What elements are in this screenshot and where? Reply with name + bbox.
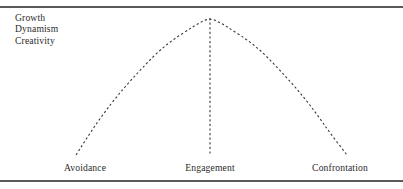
figure-container: Growth Dynamism Creativity Avoidance Eng… (0, 0, 403, 189)
axis-label-avoidance: Avoidance (64, 162, 106, 173)
bottom-rule (0, 180, 403, 182)
axis-label-confrontation: Confrontation (312, 162, 368, 173)
annotation-block: Growth Dynamism Creativity (15, 12, 58, 46)
annotation-line-1: Growth (15, 12, 58, 23)
axis-label-engagement: Engagement (185, 162, 234, 173)
curve-plot (0, 0, 403, 189)
annotation-line-3: Creativity (15, 35, 58, 46)
annotation-line-2: Dynamism (15, 23, 58, 34)
inverted-u-curve (76, 19, 347, 155)
